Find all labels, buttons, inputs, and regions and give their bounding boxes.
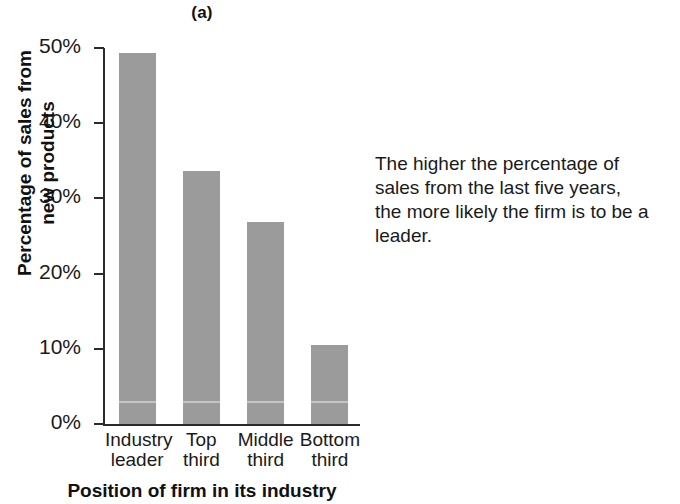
y-axis-line — [103, 48, 105, 424]
annotation-line-2: sales from the last five years, — [375, 176, 665, 200]
y-axis-title: Percentage of sales from new products — [13, 33, 59, 293]
y-axis-tick: 30% — [94, 197, 104, 199]
bar-top-third — [183, 171, 220, 424]
y-axis-tick-label: 0% — [51, 410, 81, 434]
x-axis-label-industry-leader: Industry leader — [105, 430, 169, 470]
bar-middle-third — [247, 222, 284, 424]
y-axis-tick: 50% — [94, 47, 104, 49]
x-axis-label-middle-third: Middle third — [234, 430, 298, 470]
x-axis-title: Position of firm in its industry — [0, 480, 404, 502]
y-axis-tick: 0% — [94, 423, 104, 425]
annotation-line-4: leader. — [375, 224, 665, 248]
annotation-text: The higher the percentage ofsales from t… — [375, 152, 665, 248]
x-axis-line — [103, 424, 360, 426]
x-axis-label-top-third: Top third — [169, 430, 233, 470]
x-axis-label-bottom-third: Bottom third — [298, 430, 362, 470]
y-axis-tick: 20% — [94, 273, 104, 275]
y-axis-tick: 10% — [94, 348, 104, 350]
bar-chart-plot-area: 0%10%20%30%40%50% Industry leaderTop thi… — [103, 48, 360, 424]
annotation-line-3: the more likely the firm is to be a — [375, 200, 665, 224]
bar-industry-leader — [119, 53, 156, 424]
annotation-line-1: The higher the percentage of — [375, 152, 665, 176]
y-axis-tick-label: 10% — [39, 335, 81, 359]
y-axis-tick: 40% — [94, 122, 104, 124]
bar-bottom-third — [311, 345, 348, 424]
figure-panel-label: (a) — [0, 3, 404, 23]
